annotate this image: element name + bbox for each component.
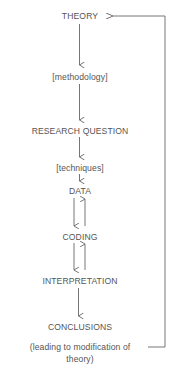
node-interpretation: INTERPRETATION — [0, 276, 160, 286]
node-research-question: RESEARCH QUESTION — [0, 126, 160, 136]
node-methodology: [methodology] — [0, 72, 160, 82]
feedback-note-line2: theory) — [0, 354, 160, 364]
node-data: DATA — [0, 186, 160, 196]
arrow-feedback-loop — [113, 16, 165, 347]
feedback-note-line1: (leading to modification of — [0, 342, 160, 352]
node-theory: THEORY — [0, 11, 160, 21]
node-techniques: [techniques] — [0, 163, 160, 173]
node-conclusions: CONCLUSIONS — [0, 322, 160, 332]
node-coding: CODING — [0, 232, 160, 242]
